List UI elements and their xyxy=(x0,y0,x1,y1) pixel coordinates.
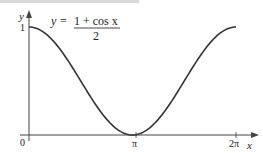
x-axis xyxy=(20,132,259,138)
x-axis-label: x xyxy=(246,139,252,151)
cosine-graph: y 1 0 π 2π x y = 1 + cos x 2 xyxy=(0,0,263,153)
y-axis xyxy=(26,10,32,141)
equation-numerator: 1 + cos x xyxy=(74,14,118,28)
y-axis-label: y xyxy=(18,10,24,22)
x-tick-0: 0 xyxy=(20,137,25,148)
equation-lhs: y = xyxy=(50,14,67,28)
y-tick-1: 1 xyxy=(20,22,25,33)
x-tick-pi: π xyxy=(132,138,137,149)
x-tick-two-pi: 2π xyxy=(229,138,239,149)
cosine-curve xyxy=(29,27,236,135)
x-axis-arrow-icon xyxy=(251,132,259,138)
equation-label: y = 1 + cos x 2 xyxy=(50,14,120,43)
equation-denominator: 2 xyxy=(93,29,99,43)
y-axis-arrow-icon xyxy=(26,10,32,18)
